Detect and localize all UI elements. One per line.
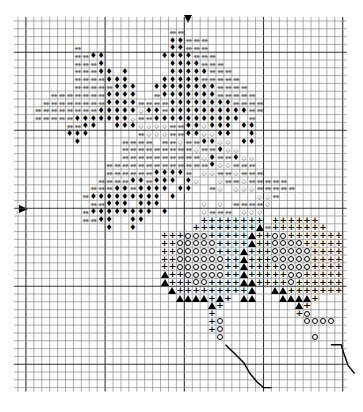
double-diamond-icon: ◈◈ (81, 76, 89, 84)
open-diamond-icon: ◇ (240, 154, 248, 162)
filled-diamond-icon: ♦ (66, 130, 74, 138)
open-diamond-icon: ◇ (208, 169, 216, 177)
double-diamond-icon: ◈◈ (137, 154, 145, 162)
filled-diamond-icon: ♦ (97, 193, 105, 201)
double-diamond-icon: ◈◈ (216, 169, 224, 177)
double-diamond-icon: ◈◈ (89, 99, 97, 107)
open-diamond-icon: ◇ (192, 146, 200, 154)
circle-icon (279, 255, 287, 263)
circle-icon (192, 232, 200, 240)
double-diamond-icon: ◈◈ (287, 185, 295, 193)
filled-diamond-icon: ♦ (184, 130, 192, 138)
filled-diamond-icon: ♦ (176, 185, 184, 193)
open-diamond-icon: ◇ (200, 154, 208, 162)
filled-diamond-icon: ♦ (97, 216, 105, 224)
filled-diamond-icon: ♦ (240, 122, 248, 130)
double-diamond-icon: ◈◈ (97, 76, 105, 84)
open-diamond-icon: ◇ (176, 138, 184, 146)
double-diamond-icon: ◈◈ (105, 169, 113, 177)
double-diamond-icon: ◈◈ (105, 177, 113, 185)
double-diamond-icon: ◈◈ (137, 115, 145, 123)
double-diamond-icon: ◈◈ (66, 107, 74, 115)
triangle-icon (271, 286, 279, 294)
double-diamond-icon: ◈◈ (34, 115, 42, 123)
double-diamond-icon: ◈◈ (81, 216, 89, 224)
double-diamond-icon: ◈◈ (224, 169, 232, 177)
filled-diamond-icon: ♦ (81, 130, 89, 138)
double-diamond-icon: ◈◈ (81, 208, 89, 216)
double-diamond-icon: ◈◈ (113, 161, 121, 169)
filled-diamond-icon: ♦ (161, 115, 169, 123)
double-diamond-icon: ◈◈ (232, 76, 240, 84)
double-diamond-icon: ◈◈ (232, 83, 240, 91)
filled-diamond-icon: ♦ (97, 68, 105, 76)
open-diamond-icon: ◇ (192, 177, 200, 185)
double-diamond-icon: ◈◈ (153, 91, 161, 99)
double-diamond-icon: ◈◈ (81, 68, 89, 76)
double-diamond-icon: ◈◈ (145, 115, 153, 123)
circle-icon (303, 317, 311, 325)
double-diamond-icon: ◈◈ (66, 115, 74, 123)
double-diamond-icon: ◈◈ (216, 68, 224, 76)
double-diamond-icon: ◈◈ (137, 146, 145, 154)
double-diamond-icon: ◈◈ (208, 185, 216, 193)
double-diamond-icon: ◈◈ (42, 107, 50, 115)
filled-diamond-icon: ♦ (161, 208, 169, 216)
circle-icon (176, 239, 184, 247)
triangle-icon (287, 294, 295, 302)
double-diamond-icon: ◈◈ (50, 91, 58, 99)
plus-icon: + (271, 224, 279, 232)
plus-icon: + (335, 286, 343, 294)
open-diamond-icon: ◇ (224, 146, 232, 154)
double-diamond-icon: ◈◈ (192, 44, 200, 52)
double-diamond-icon: ◈◈ (248, 161, 256, 169)
double-diamond-icon: ◈◈ (89, 60, 97, 68)
plus-icon: + (256, 278, 264, 286)
circle-icon (176, 255, 184, 263)
double-diamond-icon: ◈◈ (73, 91, 81, 99)
circle-icon (200, 239, 208, 247)
plus-icon: + (279, 278, 287, 286)
filled-diamond-icon: ♦ (176, 115, 184, 123)
filled-diamond-icon: ♦ (240, 107, 248, 115)
open-diamond-icon: ◇ (216, 161, 224, 169)
triangle-icon (240, 247, 248, 255)
double-diamond-icon: ◈◈ (176, 154, 184, 162)
circle-icon (200, 263, 208, 271)
plus-icon: + (287, 286, 295, 294)
filled-diamond-icon: ♦ (121, 208, 129, 216)
plus-icon: + (311, 294, 319, 302)
double-diamond-icon: ◈◈ (271, 193, 279, 201)
circle-icon (200, 271, 208, 279)
double-diamond-icon: ◈◈ (168, 154, 176, 162)
double-diamond-icon: ◈◈ (121, 138, 129, 146)
double-diamond-icon: ◈◈ (73, 76, 81, 84)
filled-diamond-icon: ♦ (121, 122, 129, 130)
open-diamond-icon: ◇ (145, 122, 153, 130)
triangle-icon (240, 271, 248, 279)
circle-icon (295, 263, 303, 271)
circle-icon (303, 255, 311, 263)
filled-diamond-icon: ♦ (161, 185, 169, 193)
double-diamond-icon: ◈◈ (161, 99, 169, 107)
double-diamond-icon: ◈◈ (81, 52, 89, 60)
double-diamond-icon: ◈◈ (161, 154, 169, 162)
plus-icon: + (216, 247, 224, 255)
plus-icon: + (208, 325, 216, 333)
filled-diamond-icon: ♦ (129, 193, 137, 201)
filled-diamond-icon: ♦ (153, 200, 161, 208)
filled-diamond-icon: ♦ (208, 138, 216, 146)
double-diamond-icon: ◈◈ (240, 161, 248, 169)
double-diamond-icon: ◈◈ (184, 138, 192, 146)
circle-icon (295, 239, 303, 247)
double-diamond-icon: ◈◈ (256, 200, 264, 208)
double-diamond-icon: ◈◈ (66, 99, 74, 107)
plus-icon: + (176, 286, 184, 294)
double-diamond-icon: ◈◈ (73, 83, 81, 91)
double-diamond-icon: ◈◈ (176, 146, 184, 154)
circle-icon (192, 255, 200, 263)
double-diamond-icon: ◈◈ (208, 60, 216, 68)
circle-icon (192, 239, 200, 247)
open-diamond-icon: ◇ (216, 177, 224, 185)
filled-diamond-icon: ♦ (105, 224, 113, 232)
